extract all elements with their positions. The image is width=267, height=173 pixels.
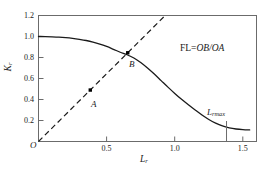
fl-prefix: FL= [180,43,196,53]
fl-definition-annotation: FL=OB/OA [180,44,224,54]
data-point-a [89,88,92,91]
lmax-label: Lrmax [207,108,225,118]
plot-frame [39,16,257,142]
data-point-b [126,51,129,54]
failure-assessment-diagram-figure: 1.2 1.0 0.8 0.6 0.4 0.2 0.5 1.0 1.5 O Kr… [0,0,267,173]
x-axis-label: Lr [140,155,148,165]
lmax-label-subscript: rmax [212,110,225,117]
x-tick-label-1_5: 1.5 [230,145,256,153]
point-label-a: A [91,100,97,109]
y-axis-label: Kr [1,58,17,82]
y-axis-label-subscript: r [6,63,13,66]
fl-ratio: OB/OA [196,43,224,53]
x-axis-label-subscript: r [145,157,148,164]
y-tick-label-0_4: 0.4 [12,96,34,104]
y-tick-label-1_2: 1.2 [12,12,34,20]
y-tick-label-1_0: 1.0 [12,33,34,41]
origin-label: O [30,141,37,150]
x-tick-label-0_5: 0.5 [94,145,120,153]
point-label-b: B [129,60,135,69]
y-tick-label-0_2: 0.2 [12,117,34,125]
chart-canvas [0,0,267,173]
y-axis-label-text: Kr [4,55,14,79]
x-tick-label-1_0: 1.0 [162,145,188,153]
